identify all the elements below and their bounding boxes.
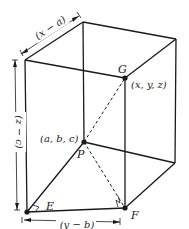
dimension-left: (z − c) bbox=[4, 60, 26, 210]
label-f: F bbox=[130, 209, 139, 222]
point-f bbox=[122, 205, 127, 210]
right-angle-marker-f bbox=[116, 196, 120, 207]
point-p bbox=[81, 139, 86, 144]
label-p-coords: (a, b, c) bbox=[40, 133, 79, 144]
dimension-top: (x − a) bbox=[20, 11, 81, 56]
label-y-minus-b: (y − b) bbox=[60, 219, 95, 229]
point-e bbox=[24, 209, 29, 214]
label-p: P bbox=[76, 148, 85, 161]
label-z-minus-c: (z − c) bbox=[14, 115, 25, 149]
point-g bbox=[122, 75, 127, 80]
box-diagram: G (x, y, z) (a, b, c) P E F (x − a) (z −… bbox=[0, 0, 189, 229]
label-e: E bbox=[45, 200, 54, 213]
label-g: G bbox=[118, 63, 127, 76]
dimension-bottom: (y − b) bbox=[22, 217, 120, 229]
label-g-coords: (x, y, z) bbox=[131, 79, 167, 90]
